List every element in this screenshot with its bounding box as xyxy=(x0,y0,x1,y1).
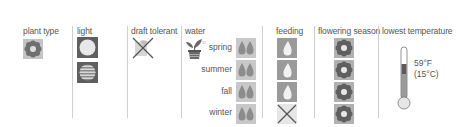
flowering-icon xyxy=(334,60,354,80)
water-season-fall: fall xyxy=(192,86,232,96)
divider-light xyxy=(72,26,73,118)
no-feeding-icon xyxy=(277,104,297,124)
flowering-icon xyxy=(334,104,354,124)
divider-draft xyxy=(127,26,128,118)
divider-water xyxy=(181,26,182,118)
header-lowest-temperature: lowest temperature xyxy=(382,26,452,36)
flowering-icon xyxy=(334,38,354,58)
flower-icon xyxy=(23,39,43,59)
water-season-winter: winter xyxy=(192,107,232,117)
temperature-celsius: (15°C) xyxy=(414,69,439,80)
flowering-icon xyxy=(334,82,354,102)
water-drops-icon xyxy=(236,104,256,124)
not-draft-tolerant-icon xyxy=(132,37,154,59)
feeding-drop-icon xyxy=(277,38,297,58)
header-light: light xyxy=(77,26,92,36)
divider-flowering xyxy=(314,26,315,118)
header-draft-tolerant: draft tolerant xyxy=(131,26,177,36)
header-feeding: feeding xyxy=(276,26,303,36)
feeding-drop-icon xyxy=(277,60,297,80)
header-water: water xyxy=(185,26,205,36)
full-sun-icon xyxy=(77,37,98,58)
header-plant-type: plant type xyxy=(23,26,59,36)
water-drops-icon xyxy=(236,82,256,102)
water-drops-icon xyxy=(236,60,256,80)
water-season-spring: spring xyxy=(192,42,232,52)
thermometer-icon xyxy=(397,46,411,110)
partial-shade-icon xyxy=(77,62,98,83)
divider-feeding xyxy=(262,26,263,118)
header-flowering-season: flowering season xyxy=(318,26,380,36)
temperature-fahrenheit: 59°F xyxy=(414,58,432,69)
water-drops-icon xyxy=(236,38,256,58)
divider-temperature xyxy=(378,26,379,118)
feeding-drop-icon xyxy=(277,82,297,102)
water-season-summer: summer xyxy=(192,64,232,74)
